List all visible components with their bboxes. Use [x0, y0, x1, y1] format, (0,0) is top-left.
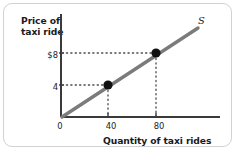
data-point-40-4: [103, 80, 112, 89]
supply-curve-line: [62, 28, 198, 117]
chart-plot-area: [4, 4, 233, 148]
figure-frame: Price of taxi ride Quantity of taxi ride…: [3, 3, 232, 147]
data-point-80-8: [151, 48, 160, 57]
